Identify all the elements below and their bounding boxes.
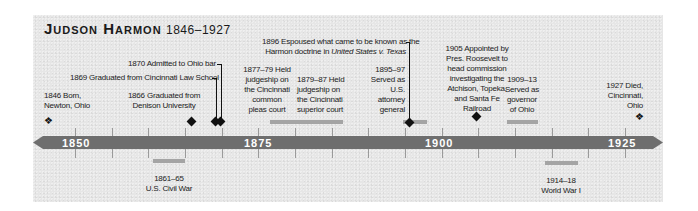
leader-line [221,64,222,120]
superior-line: judgeship on [297,85,344,95]
leader-line [216,78,217,120]
harmon-doctrine-prefix: Harmon doctrine in [265,47,331,56]
denison-line1: 1866 Graduated from [123,91,205,101]
commission-line: 1905 Appointed by [436,44,518,54]
harmon-doctrine-line2: Harmon doctrine in United States v. Texa… [262,47,406,57]
common-pleas-line: pleas court [238,105,296,115]
attorney-general-line: Served as [370,75,405,85]
case-name: United States v. Texas [331,47,406,56]
event-governor-label: 1909–13 Served as governor of Ohio [500,75,544,115]
event-denison-label: 1866 Graduated from Denison University [123,91,205,111]
denison-line2: Denison University [123,101,205,111]
governor-line: 1909–13 [500,75,544,85]
attorney-general-line: 1895–97 [370,65,405,75]
common-pleas-line: the Cincinnati [238,85,296,95]
commission-line: head commission [436,64,518,74]
governor-line: of Ohio [500,105,544,115]
title-name: Judson Harmon [44,20,162,37]
event-law-school-label: 1869 Graduated from Cincinnati Law Schoo… [70,73,212,83]
title-years: 1846–1927 [166,23,231,37]
birth-marker-icon: ❖ [44,116,53,126]
event-common-pleas-label: 1877–79 Held judgeship on the Cincinnati… [238,65,296,115]
event-wwi-label: 1914–18 World War I [532,176,590,196]
common-pleas-line: common [238,95,296,105]
common-pleas-line: judgeship on [238,75,296,85]
axis-label-1900: 1900 [425,137,453,149]
attorney-general-line: U.S. [370,85,405,95]
event-died-label: 1927 Died, Cincinnati, Ohio [600,81,643,111]
civil-war-name: U.S. Civil War [140,184,198,194]
born-line2: Newton, Ohio [44,101,90,111]
event-superior-court-label: 1879–87 Held judgeship on the Cincinnati… [297,75,344,115]
axis-label-1875: 1875 [244,137,272,149]
event-harmon-doctrine-label: 1896 Espoused what came to be known as t… [262,37,406,57]
axis-label-1925: 1925 [608,137,636,149]
axis-label-1850: 1850 [62,137,90,149]
attorney-general-line: attorney [370,95,405,105]
leader-line [409,42,410,120]
governor-line: governor [500,95,544,105]
death-marker-icon: ❖ [635,112,644,122]
civil-war-years: 1861–65 [140,174,198,184]
superior-line: superior court [297,105,344,115]
event-attorney-general-label: 1895–97 Served as U.S. attorney general [370,65,405,115]
common-pleas-line: 1877–79 Held [238,65,296,75]
governor-line: Served as [500,85,544,95]
span-wwi-1914-1918 [545,161,578,165]
event-civil-war-label: 1861–65 U.S. Civil War [140,174,198,194]
event-ohio-bar-label: 1870 Admitted to Ohio bar [120,59,216,69]
died-line: 1927 Died, [600,81,643,91]
wwi-name: World War I [532,186,590,196]
span-judgeships-1877-1887 [270,120,343,124]
died-line: Ohio [600,101,643,111]
superior-line: 1879–87 Held [297,75,344,85]
timeline-title: Judson Harmon 1846–1927 [44,20,231,37]
attorney-general-line: general [370,105,405,115]
superior-line: the Cincinnati [297,95,344,105]
wwi-years: 1914–18 [532,176,590,186]
died-line: Cincinnati, [600,91,643,101]
span-civil-war-1861-1865 [153,159,185,163]
commission-line: Pres. Roosevelt to [436,54,518,64]
event-born-label: 1846 Born, Newton, Ohio [44,91,90,111]
span-governor-1909-1913 [507,120,538,124]
born-line1: 1846 Born, [44,91,90,101]
harmon-doctrine-line1: 1896 Espoused what came to be known as t… [262,37,406,47]
timeline-axis [33,136,663,149]
